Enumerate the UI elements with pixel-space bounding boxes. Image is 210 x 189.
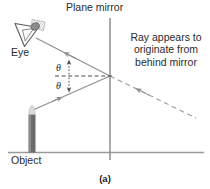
label-ray-origin-note: Ray appears to originate from behind mir… [125,31,207,68]
label-object: Object [11,155,41,167]
virtual-ray-dashed [110,76,196,118]
object-tip [29,105,35,114]
incident-ray [33,76,110,110]
reflected-ray-arrow [66,53,76,58]
figure-caption: (a) [0,173,210,184]
eye-symbol [15,20,45,47]
virtual-ray-arrow [138,90,150,96]
object-body-highlight [29,114,31,153]
label-theta-reflected: θ [56,80,61,91]
label-eye: Eye [11,47,29,59]
label-theta-incident: θ [56,62,61,73]
label-plane-mirror: Plane mirror [66,2,123,14]
reflection-plane-mirror-figure: Plane mirror Ray appears to originate fr… [0,0,210,189]
incident-ray-arrow [52,98,60,102]
